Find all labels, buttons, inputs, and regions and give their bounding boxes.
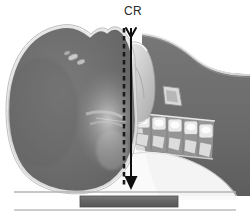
central-ray-arrowhead bbox=[125, 176, 138, 190]
radiograph-positioning-figure: CR bbox=[0, 0, 250, 217]
central-ray-label: CR bbox=[113, 4, 153, 18]
central-ray-layer bbox=[0, 0, 250, 217]
